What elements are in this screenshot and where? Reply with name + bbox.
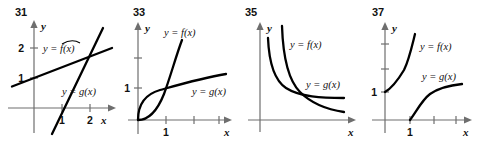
curve-label-f: y = f(x) [289,39,322,51]
y-tick-label-1: 1 [124,82,130,94]
x-tick-label-2: 2 [87,114,93,126]
curve-label-g: y = g(x) [305,79,340,91]
panel-33-plot: 1 1 y x y = f(x) y = g(x) [120,0,238,141]
figure-panel-37: 37 1 1 y x y = f(x) [364,0,481,141]
x-tick-label-1: 1 [163,126,169,138]
x-axis-arrowhead [348,116,356,123]
panel-31-plot: 2 1 1 2 y x y = f(x) y = g(x) [0,0,120,141]
curve-label-f: y = f(x) [419,41,452,53]
x-axis-label: x [462,126,469,138]
x-axis-label: x [347,126,354,138]
curve-f [385,34,415,92]
curve-label-f: y = f(x) [163,27,196,39]
curve-label-f: y = f(x) [42,43,75,55]
y-tick-label-2: 2 [18,42,24,54]
y-axis-arrowhead [256,22,263,30]
y-axis-label: y [265,22,272,34]
curve-f [138,40,182,120]
x-axis-label: x [100,114,107,126]
x-tick-label-1: 1 [407,126,413,138]
y-axis-label: y [390,22,397,34]
curve-label-g: y = g(x) [421,71,456,83]
curve-g [410,84,462,120]
figure-panel-31: 31 2 1 1 2 y x [0,0,120,141]
y-axis-arrowhead [381,22,388,30]
figure-strip: 31 2 1 1 2 y x [0,0,481,141]
y-axis-label: y [39,20,46,32]
figure-panel-35: 35 y x y = f(x) y = g(x) [238,0,364,141]
x-axis-arrowhead [464,116,472,123]
x-axis-arrowhead [108,104,116,111]
x-axis-arrowhead [224,116,232,123]
y-axis-label: y [143,22,150,34]
curve-label-g: y = g(x) [191,86,226,98]
y-tick-label-1: 1 [371,86,377,98]
figure-panel-33: 33 1 1 y x y = f(x) y = g( [120,0,238,141]
y-axis-arrowhead [134,22,141,30]
y-axis-arrowhead [30,20,37,28]
panel-35-plot: y x y = f(x) y = g(x) [238,0,364,141]
x-axis-label: x [223,126,230,138]
panel-37-plot: 1 1 y x y = f(x) y = g(x) [364,0,481,141]
curve-label-g: y = g(x) [61,86,96,98]
